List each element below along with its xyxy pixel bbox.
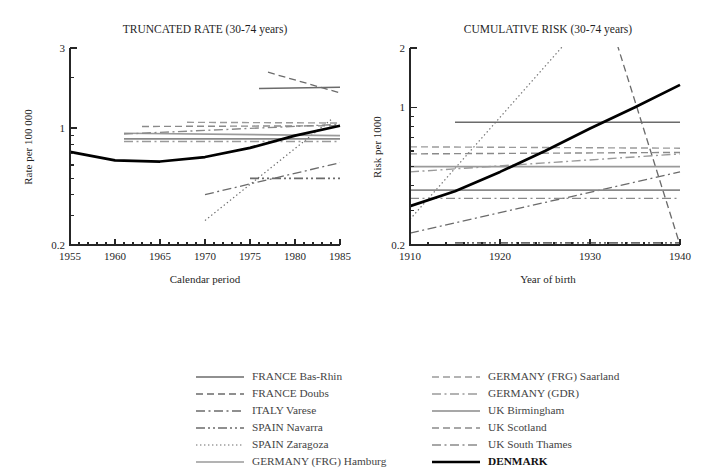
ytick-label: 2: [400, 42, 406, 54]
xtick-label: 1980: [284, 250, 307, 262]
xtick-label: 1970: [194, 250, 217, 262]
legend-label: SPAIN Navarra: [252, 421, 323, 433]
legend-label: UK Birmingham: [488, 404, 564, 416]
figure-background: [0, 0, 701, 473]
ytick-label: 3: [60, 42, 66, 54]
yaxis-title-risk-per-1000: Risk per 1000: [371, 116, 383, 178]
xtick-label: 1910: [399, 250, 422, 262]
legend-label: GERMANY (FRG) Saarland: [488, 370, 620, 383]
legend-label: FRANCE Bas-Rhin: [252, 370, 342, 382]
legend-label: SPAIN Zaragoza: [252, 438, 328, 450]
legend-label: ITALY Varese: [252, 404, 316, 416]
xaxis-title-year-of-birth: Year of birth: [520, 273, 576, 285]
xtick-label: 1920: [489, 250, 512, 262]
xtick-label: 1975: [239, 250, 262, 262]
legend-label: UK South Thames: [488, 438, 572, 450]
legend-label: GERMANY (GDR): [488, 387, 579, 400]
xaxis-title-calendar-period: Calendar period: [170, 273, 241, 285]
yaxis-title-rate-per-100000: Rate per 100 000: [22, 109, 34, 185]
xtick-label: 1940: [669, 250, 692, 262]
ytick-label: 1: [400, 101, 406, 113]
legend-label: FRANCE Doubs: [252, 387, 329, 399]
legend-label: GERMANY (FRG) Hamburg: [252, 455, 387, 468]
panel-title-cumulative-risk: CUMULATIVE RISK (30-74 years): [464, 23, 632, 36]
xtick-label: 1960: [104, 250, 127, 262]
ytick-label: 1: [60, 122, 66, 134]
xtick-label: 1955: [59, 250, 82, 262]
ytick-label: 0.2: [391, 239, 405, 251]
xtick-label: 1965: [149, 250, 172, 262]
xtick-label: 1930: [579, 250, 602, 262]
panel-title-truncated-rate: TRUNCATED RATE (30-74 years): [123, 23, 288, 36]
xtick-label: 1985: [329, 250, 352, 262]
figure-canvas: TRUNCATED RATE (30-74 years) 19551960196…: [0, 0, 701, 473]
legend-label: UK Scotland: [488, 421, 547, 433]
ytick-label: 0.2: [51, 239, 65, 251]
legend-label: DENMARK: [488, 455, 548, 467]
